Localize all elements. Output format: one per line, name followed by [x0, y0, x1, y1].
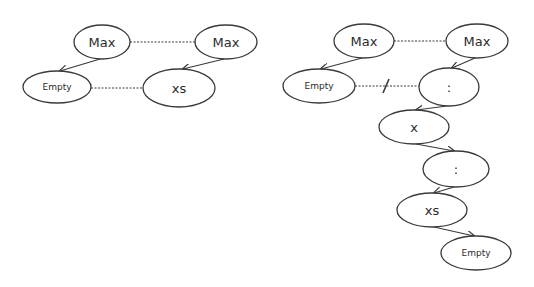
- node-label: xs: [425, 203, 440, 218]
- node-label: x: [410, 120, 418, 135]
- node-before-max_a: Max: [74, 25, 130, 59]
- diagram-svg: MaxMaxEmptyxsMaxMaxEmpty:x:xsEmpty: [0, 0, 534, 287]
- arrow-before-max_b-to-xs: [183, 59, 224, 69]
- node-after-empty_2: Empty: [441, 236, 511, 270]
- node-before-empty: Empty: [23, 71, 91, 103]
- node-after-xs: xs: [397, 193, 467, 227]
- node-after-max_b: Max: [446, 24, 508, 58]
- node-label: xs: [172, 81, 187, 96]
- node-label: Empty: [304, 81, 334, 91]
- node-label: :: [447, 80, 451, 95]
- node-label: :: [454, 162, 458, 177]
- arrow-after-xs-to-empty_2: [434, 227, 474, 236]
- node-label: Empty: [42, 82, 72, 92]
- dotted-link-after-empty_1-cons_1: [355, 79, 419, 93]
- arrow-before-max_a-to-empty: [60, 59, 100, 71]
- node-label: Max: [464, 34, 491, 49]
- node-before-max_b: Max: [195, 25, 257, 59]
- arrow-after-max_a-to-empty_1: [321, 58, 362, 69]
- arrow-after-cons_1-to-x: [416, 106, 447, 110]
- arrow-after-max_b-to-cons_1: [452, 58, 475, 68]
- node-label: Max: [213, 35, 240, 50]
- node-label: Empty: [461, 248, 491, 258]
- node-after-empty_1: Empty: [283, 69, 355, 103]
- nodes-layer: MaxMaxEmptyxsMaxMaxEmpty:x:xsEmpty: [23, 24, 511, 270]
- node-label: Max: [351, 34, 378, 49]
- node-after-max_a: Max: [334, 24, 394, 58]
- node-before-xs: xs: [143, 69, 215, 107]
- diagram-canvas: MaxMaxEmptyxsMaxMaxEmpty:x:xsEmpty: [0, 0, 534, 287]
- arrow-after-cons_2-to-xs: [434, 187, 454, 193]
- node-label: Max: [89, 35, 116, 50]
- node-after-x: x: [379, 110, 449, 144]
- arrow-after-x-to-cons_2: [416, 144, 454, 151]
- node-after-cons_2: :: [423, 151, 489, 187]
- node-after-cons_1: :: [419, 68, 479, 106]
